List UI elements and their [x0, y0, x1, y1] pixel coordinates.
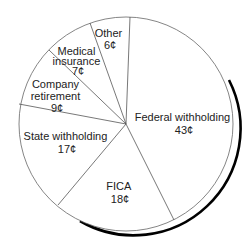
pie-chart: Federal withholding 43¢ FICA 18¢ State w… — [0, 0, 249, 249]
